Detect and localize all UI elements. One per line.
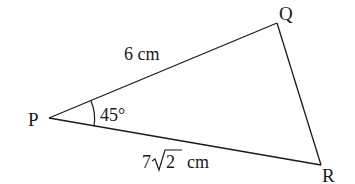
- triangle-diagram: P Q R 6 cm 45° 7 2 cm: [0, 0, 355, 184]
- side-label-pr-coefficient: 7: [142, 152, 151, 172]
- side-label-pr: 7 2 cm: [142, 150, 209, 172]
- side-qr: [277, 23, 321, 165]
- side-label-pr-radicand: 2: [166, 152, 175, 172]
- vertex-label-p: P: [28, 109, 39, 130]
- angle-arc-p: [91, 101, 95, 126]
- side-label-pr-unit: cm: [187, 152, 209, 172]
- vertex-label-q: Q: [279, 3, 293, 24]
- angle-label-p: 45°: [100, 105, 125, 125]
- side-pr: [49, 118, 321, 165]
- side-pq: [49, 23, 277, 118]
- side-label-pq: 6 cm: [124, 44, 160, 64]
- vertex-label-r: R: [322, 165, 335, 184]
